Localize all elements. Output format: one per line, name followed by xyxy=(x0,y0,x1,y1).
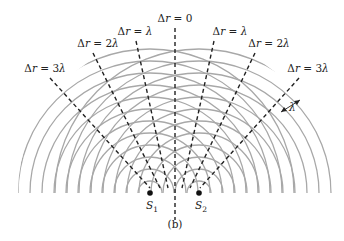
source-2-label: S2 xyxy=(195,199,207,214)
panel-label: (b) xyxy=(168,218,183,230)
path-difference-line-left xyxy=(50,78,150,188)
path-difference-label-left: Δr = 2λ xyxy=(77,37,118,49)
path-difference-label-right: Δr = λ xyxy=(213,25,248,37)
wavelength-label: λ xyxy=(288,101,296,113)
wavelength-marker: λ xyxy=(281,100,300,113)
path-difference-line-left xyxy=(136,41,168,188)
sources: S1S2 xyxy=(146,190,207,214)
path-difference-label-left: Δr = λ xyxy=(118,25,153,37)
path-difference-lines xyxy=(50,28,299,220)
source-2-dot xyxy=(196,190,202,196)
path-difference-labels: Δr = 3λΔr = 2λΔr = λΔr = 0Δr = λΔr = 2λΔ… xyxy=(24,12,328,74)
two-source-interference-diagram: Δr = 3λΔr = 2λΔr = λΔr = 0Δr = λΔr = 2λΔ… xyxy=(0,0,344,241)
path-difference-label-right: Δr = 2λ xyxy=(248,37,289,49)
path-difference-line-right xyxy=(182,41,214,188)
path-difference-label-left: Δr = 3λ xyxy=(24,62,65,74)
path-difference-label-center: Δr = 0 xyxy=(158,12,193,24)
path-difference-label-right: Δr = 3λ xyxy=(287,62,328,74)
path-difference-line-right xyxy=(200,78,299,188)
source-1-dot xyxy=(147,190,153,196)
source-1-label: S1 xyxy=(146,199,158,214)
